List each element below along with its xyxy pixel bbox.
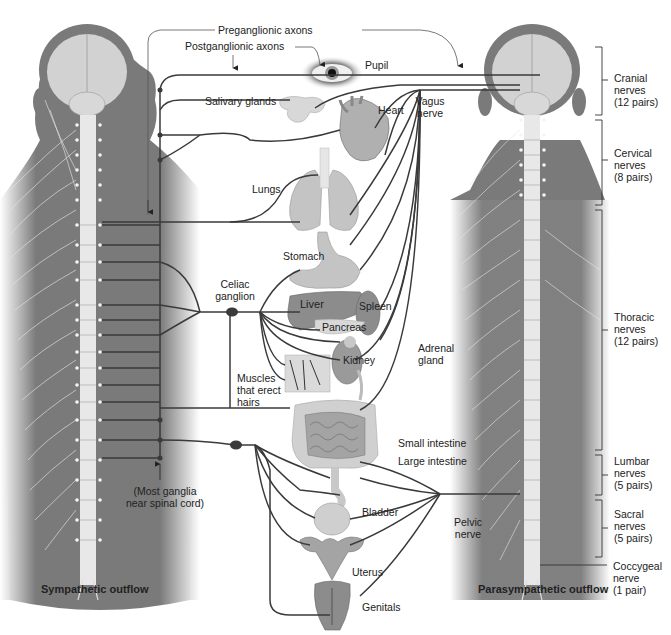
lungs-label: Lungs <box>252 183 281 195</box>
celiac-ganglion-node <box>226 308 238 317</box>
adrenal-gland-label: Adrenal gland <box>418 342 460 366</box>
ganglia-note-label: (Most ganglia near spinal cord) <box>125 485 205 509</box>
parasympathetic-outflow-title: Parasympathetic outflow <box>478 583 608 595</box>
pupil-label: Pupil <box>365 59 388 71</box>
large-intestine-label: Large intestine <box>398 455 467 467</box>
sympathetic-outflow-title: Sympathetic outflow <box>41 583 149 595</box>
autonomic-nervous-system-diagram <box>0 0 671 635</box>
small-intestine-organ <box>305 412 365 458</box>
pelvic-nerve-label: Pelvic nerve <box>448 516 488 540</box>
vagus-nerve-label: Vagus nerve <box>405 95 455 119</box>
preganglionic-axons-label: Preganglionic axons <box>218 24 313 36</box>
heart-label: Heart <box>378 104 404 116</box>
cervical-nerves-label: Cervical nerves (8 pairs) <box>614 147 653 183</box>
pancreas-label: Pancreas <box>322 321 366 333</box>
stomach-label: Stomach <box>283 250 324 262</box>
salivary-glands-label: Salivary glands <box>205 95 276 107</box>
spleen-label: Spleen <box>359 300 392 312</box>
muscles-that-erect-hairs-organ <box>285 355 330 392</box>
cranial-nerves-label: Cranial nerves (12 pairs) <box>614 72 658 108</box>
adrenal-gland-organ <box>344 336 356 348</box>
thoracic-nerves-label: Thoracic nerves (12 pairs) <box>614 311 658 347</box>
sympathetic-body-silhouette <box>0 24 200 610</box>
muscles-that-erect-hairs-label: Muscles that erect hairs <box>237 372 281 408</box>
kidney-label: Kidney <box>343 354 375 366</box>
liver-label: Liver <box>300 298 324 310</box>
postganglionic-axons-label: Postganglionic axons <box>185 40 284 52</box>
coccygeal-nerve-label: Coccygeal nerve (1 pair) <box>613 560 662 596</box>
bladder-organ <box>314 503 350 535</box>
uterus-label: Uterus <box>352 566 383 578</box>
small-intestine-label: Small intestine <box>398 437 466 449</box>
sacral-nerves-label: Sacral nerves (5 pairs) <box>614 508 653 544</box>
genitals-label: Genitals <box>362 601 401 613</box>
celiac-ganglion-label: Celiac ganglion <box>210 278 260 302</box>
bladder-label: Bladder <box>362 506 398 518</box>
parasympathetic-body-silhouette <box>450 24 610 600</box>
lumbar-nerves-label: Lumbar nerves (5 pairs) <box>614 455 653 491</box>
organs <box>280 56 389 630</box>
